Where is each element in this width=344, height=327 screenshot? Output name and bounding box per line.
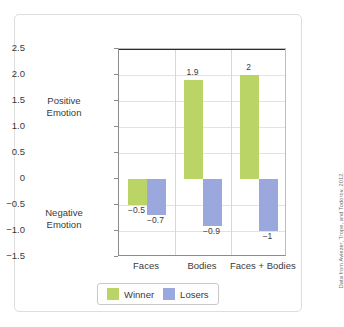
value-label: −1 (248, 231, 288, 241)
category-divider (231, 49, 232, 255)
value-label: 2 (229, 62, 269, 72)
value-label: −0.5 (117, 205, 157, 215)
bar-winner-bodies (184, 80, 203, 179)
legend-label: Losers (180, 289, 209, 300)
bar-winner-faces (128, 179, 147, 205)
y-axis-tick-label: 1.0 (0, 120, 25, 131)
value-label: 1.9 (173, 67, 213, 77)
category-label-bodies: Bodies (174, 260, 230, 271)
negative-emotion-axis-label: Negative Emotion (33, 207, 95, 230)
legend-swatch-winner (107, 288, 119, 300)
y-axis-tick-label: −0.5 (0, 198, 25, 209)
value-label: −0.7 (136, 215, 176, 225)
legend-item-losers[interactable]: Losers (163, 288, 209, 300)
category-label-faces: Faces (118, 260, 174, 271)
y-axis-tick-label: 2.0 (0, 68, 25, 79)
chart-legend: WinnerLosers (97, 283, 219, 305)
category-label-faces-bodies: Faces + Bodies (230, 260, 286, 271)
y-axis-tick-mark (114, 256, 118, 257)
y-axis-tick-label: −1.5 (0, 250, 25, 261)
y-axis-tick-label: 2.5 (0, 42, 25, 53)
figure-panel: Positive Emotion Negative Emotion 2.52.0… (14, 14, 302, 312)
source-credit: Data from Aviezer, Trope, and Todorov, 2… (338, 172, 344, 288)
bar-winner-faces-bodies (240, 75, 259, 179)
y-axis-tick-label: 0 (0, 172, 25, 183)
legend-label: Winner (124, 289, 154, 300)
bar-losers-faces-bodies (259, 179, 278, 231)
value-label: −0.9 (192, 226, 232, 236)
zero-baseline (119, 49, 285, 50)
y-axis-tick-label: 0.5 (0, 146, 25, 157)
bar-losers-bodies (203, 179, 222, 226)
legend-swatch-losers (163, 288, 175, 300)
legend-item-winner[interactable]: Winner (107, 288, 154, 300)
y-axis-tick-label: 1.5 (0, 94, 25, 105)
y-axis-tick-label: −1.0 (0, 224, 25, 235)
positive-emotion-axis-label: Positive Emotion (33, 95, 95, 118)
